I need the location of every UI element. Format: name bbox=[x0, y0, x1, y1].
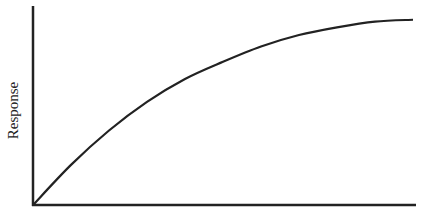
chart-canvas bbox=[0, 0, 421, 218]
y-axis-label-text: Response bbox=[6, 81, 23, 139]
y-axis-label: Response bbox=[2, 70, 26, 150]
response-curve bbox=[33, 20, 413, 205]
